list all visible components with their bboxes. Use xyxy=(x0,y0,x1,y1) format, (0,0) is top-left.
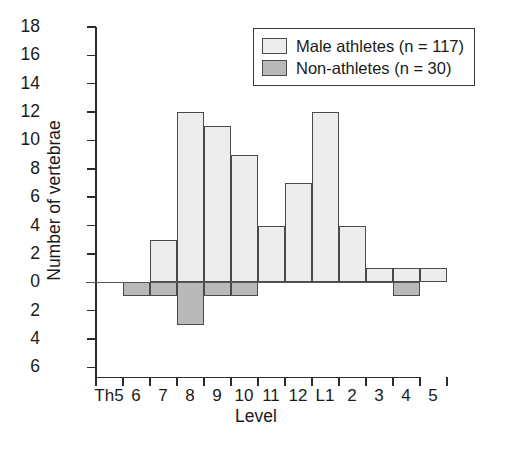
y-tick-label: 0 xyxy=(0,273,40,291)
legend-swatch-icon-male-athletes xyxy=(262,38,287,54)
bar-male-athletes xyxy=(420,268,447,282)
y-tick-label: 16 xyxy=(0,46,40,64)
y-tick-mark xyxy=(87,83,96,85)
bar-male-athletes xyxy=(177,112,204,282)
y-tick-label: 4 xyxy=(0,217,40,235)
bar-non-athletes xyxy=(231,282,258,296)
bar-non-athletes xyxy=(177,282,204,325)
x-tick-mark xyxy=(338,377,340,386)
bar-male-athletes xyxy=(393,268,420,282)
y-tick-mark xyxy=(87,310,96,312)
x-tick-mark xyxy=(446,377,448,386)
y-tick-mark xyxy=(87,196,96,198)
legend: Male athletes (n = 117) Non-athletes (n … xyxy=(253,28,475,86)
x-tick-mark xyxy=(95,377,97,386)
legend-item-non-athletes: Non-athletes (n = 30) xyxy=(262,57,464,79)
x-tick-mark xyxy=(392,377,394,386)
bar-male-athletes xyxy=(285,183,312,282)
legend-label-non-athletes: Non-athletes (n = 30) xyxy=(296,60,451,77)
x-tick-mark xyxy=(176,377,178,386)
x-tick-mark xyxy=(122,377,124,386)
x-axis-title: Level xyxy=(96,406,416,427)
y-tick-mark xyxy=(87,367,96,369)
y-tick-label: 6 xyxy=(0,188,40,206)
bar-male-athletes xyxy=(231,155,258,283)
legend-swatch-icon-non-athletes xyxy=(262,60,287,76)
x-tick-mark xyxy=(284,377,286,386)
x-tick-mark xyxy=(257,377,259,386)
y-tick-label: 2 xyxy=(0,245,40,263)
x-tick-mark xyxy=(203,377,205,386)
bar-male-athletes xyxy=(312,112,339,282)
y-tick-mark xyxy=(87,111,96,113)
y-tick-mark xyxy=(87,55,96,57)
y-tick-mark xyxy=(87,225,96,227)
legend-label-male-athletes: Male athletes (n = 117) xyxy=(296,38,464,55)
bar-male-athletes xyxy=(150,240,177,283)
x-tick-mark xyxy=(365,377,367,386)
y-tick-label: 12 xyxy=(0,103,40,121)
bar-non-athletes xyxy=(150,282,177,296)
y-axis-line xyxy=(95,27,97,378)
bar-male-athletes xyxy=(366,268,393,282)
bar-male-athletes xyxy=(339,226,366,283)
y-tick-mark xyxy=(87,338,96,340)
x-tick-mark xyxy=(419,377,421,386)
vertebrae-level-histogram: Number of vertebrae 181614121086420246 T… xyxy=(0,0,520,449)
y-axis-title: Number of vertebrae xyxy=(44,51,65,351)
y-tick-label: 6 xyxy=(0,358,40,376)
x-tick-label: 5 xyxy=(413,387,453,404)
zero-baseline xyxy=(86,282,420,284)
y-tick-label: 10 xyxy=(0,131,40,149)
bar-male-athletes xyxy=(258,226,285,283)
y-tick-label: 14 xyxy=(0,75,40,93)
y-tick-mark xyxy=(87,140,96,142)
bar-non-athletes xyxy=(393,282,420,296)
y-tick-label: 2 xyxy=(0,302,40,320)
y-tick-mark xyxy=(87,168,96,170)
x-tick-mark xyxy=(311,377,313,386)
x-tick-mark xyxy=(230,377,232,386)
y-tick-label: 8 xyxy=(0,160,40,178)
bar-non-athletes xyxy=(123,282,150,296)
x-tick-mark xyxy=(149,377,151,386)
y-tick-label: 4 xyxy=(0,330,40,348)
bar-male-athletes xyxy=(204,126,231,282)
y-tick-mark xyxy=(87,26,96,28)
bar-non-athletes xyxy=(204,282,231,296)
y-tick-label: 18 xyxy=(0,18,40,36)
legend-item-male-athletes: Male athletes (n = 117) xyxy=(262,35,464,57)
y-tick-mark xyxy=(87,253,96,255)
